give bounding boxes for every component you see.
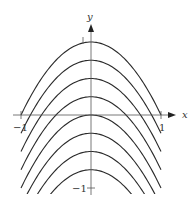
y-axis-arrow-icon [88,24,94,32]
y-tick-label-neg1: −1 [72,183,87,194]
parabola-family-diagram: x y −1 1 −1 [0,0,194,201]
x-tick-label-neg1: −1 [13,122,28,133]
y-axis-label: y [86,11,93,22]
x-tick-label-pos1: 1 [159,122,165,133]
x-axis-arrow-icon [168,112,176,118]
x-axis-label: x [182,109,188,120]
